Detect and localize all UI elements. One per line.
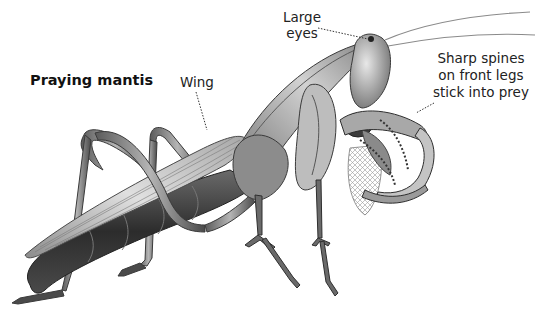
compound-eye: [368, 36, 374, 42]
mid-standing-leg-2: [312, 180, 338, 296]
label-eyes-line1: Large: [283, 9, 321, 25]
label-eyes-line2: eyes: [283, 25, 321, 41]
wing-leader-line: [196, 92, 207, 130]
thorax: [233, 135, 288, 200]
head: [350, 34, 390, 108]
mid-standing-leg-1: [245, 195, 300, 288]
front-coxa: [295, 84, 336, 190]
label-sharp-spines: Sharp spines on front legs stick into pr…: [433, 50, 529, 101]
spines-leader-line: [416, 103, 434, 113]
label-large-eyes: Large eyes: [283, 9, 321, 41]
label-spines-line1: Sharp spines: [433, 50, 529, 67]
mantis-illustration: [0, 0, 543, 315]
label-spines-line3: stick into prey: [433, 84, 529, 101]
label-wing: Wing: [180, 74, 214, 90]
antennae: [385, 12, 535, 46]
label-spines-line2: on front legs: [433, 67, 529, 84]
diagram-title: Praying mantis: [30, 72, 153, 88]
mantis-diagram: Praying mantis Wing Large eyes Sharp spi…: [0, 0, 543, 315]
label-wing-text: Wing: [180, 74, 214, 90]
